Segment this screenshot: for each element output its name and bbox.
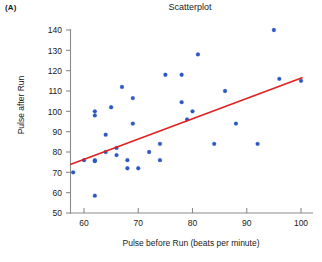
- data-point: [93, 114, 97, 118]
- data-point: [277, 77, 281, 81]
- data-point: [272, 28, 276, 32]
- data-points: [71, 28, 303, 198]
- data-point: [234, 122, 238, 126]
- data-point: [93, 194, 97, 198]
- y-tick-label: 90: [53, 127, 63, 137]
- x-tick-label: 70: [134, 218, 144, 228]
- data-point: [212, 142, 216, 146]
- y-tick-label: 130: [48, 46, 62, 56]
- x-tick-label: 90: [242, 218, 252, 228]
- data-point: [158, 158, 162, 162]
- data-point: [93, 158, 97, 162]
- data-point: [256, 142, 260, 146]
- y-axis-label: Pulse after Run: [16, 40, 26, 170]
- x-tick-group: 60708090100: [79, 208, 308, 228]
- data-point: [147, 150, 151, 154]
- y-tick-group: 5060708090100110120130140: [48, 25, 71, 218]
- data-point: [71, 170, 75, 174]
- data-point: [120, 85, 124, 89]
- x-axis-label: Pulse before Run (beats per minute): [60, 238, 322, 248]
- y-tick-label: 80: [53, 147, 63, 157]
- data-point: [191, 109, 195, 113]
- data-point: [158, 142, 162, 146]
- x-tick-label: 60: [79, 218, 89, 228]
- data-point: [104, 133, 108, 137]
- data-point: [126, 166, 130, 170]
- data-point: [223, 89, 227, 93]
- y-tick-label: 50: [53, 208, 63, 218]
- data-point: [180, 73, 184, 77]
- x-axis: 60708090100: [71, 208, 314, 228]
- y-tick-label: 70: [53, 168, 63, 178]
- y-tick-label: 110: [48, 86, 62, 96]
- scatterplot-figure: (A) Scatterplot 506070809010011012013014…: [0, 0, 322, 262]
- data-point: [93, 109, 97, 113]
- y-axis: 5060708090100110120130140: [48, 25, 71, 218]
- data-point: [109, 105, 113, 109]
- data-point: [131, 96, 135, 100]
- y-tick-label: 100: [48, 107, 62, 117]
- data-point: [115, 153, 119, 157]
- y-tick-label: 60: [53, 188, 63, 198]
- data-point: [126, 158, 130, 162]
- data-point: [163, 73, 167, 77]
- y-tick-label: 120: [48, 66, 62, 76]
- data-point: [131, 122, 135, 126]
- x-tick-label: 100: [294, 218, 308, 228]
- data-point: [136, 166, 140, 170]
- data-point: [196, 53, 200, 57]
- y-tick-label: 140: [48, 25, 62, 35]
- plot-area: 5060708090100110120130140 60708090100: [0, 0, 322, 262]
- data-point: [180, 100, 184, 104]
- x-tick-label: 80: [188, 218, 198, 228]
- regression-line: [71, 78, 302, 164]
